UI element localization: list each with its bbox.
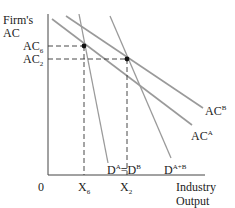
demand-a-plus-b-curve — [110, 16, 171, 158]
x-axis-label: Industry Output — [176, 180, 216, 208]
demand-a-plus-b-label: DA+B — [164, 161, 186, 176]
y-axis-label: Firm's AC — [3, 14, 33, 40]
ac-a-curve — [52, 19, 192, 125]
origin-label: 0 — [38, 181, 44, 193]
equilibrium-point-6 — [82, 44, 87, 49]
demand-a-b-curve — [79, 14, 108, 163]
x-tick-x6: X6 — [78, 181, 90, 198]
ac-b-curve — [66, 16, 203, 108]
ac-b-label: ACB — [205, 102, 226, 117]
diagram-canvas — [0, 0, 235, 208]
demand-a-eq-b-label: DA=DB — [107, 161, 141, 176]
x-axis-label-line2: Output — [176, 194, 216, 208]
ac-a-label: ACA — [191, 127, 213, 142]
y-tick-ac2: AC2 — [23, 53, 43, 70]
x-axis-label-line1: Industry — [176, 180, 216, 194]
x-tick-x2: X2 — [120, 181, 132, 198]
equilibrium-point-2 — [125, 57, 130, 62]
